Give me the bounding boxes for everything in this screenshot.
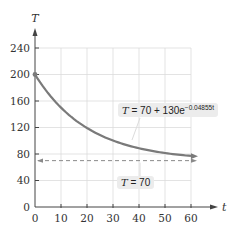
y-tick-label: 200	[10, 68, 30, 80]
y-tick-label: 80	[17, 148, 30, 160]
tick-labels: 010203040506004080120160200240Tt	[10, 12, 227, 224]
y-axis-arrow-icon	[33, 28, 38, 36]
y-tick-label: 240	[10, 42, 30, 54]
asymptote-equation-label: T = 70	[117, 176, 154, 189]
curve-equation-rhs: = 70 + 130e	[129, 105, 185, 116]
asymptote-left-arrow-icon	[37, 158, 43, 162]
curve-equation-exponent: −0.04855t	[185, 104, 214, 111]
y-tick-label: 0	[23, 201, 30, 213]
asymptote-equation-lhs: T	[121, 177, 128, 188]
x-tick-label: 20	[80, 212, 93, 224]
y-tick-label: 40	[17, 174, 30, 186]
curve-equation-label: T = 70 + 130e−0.04855t	[118, 103, 218, 117]
x-tick-label: 0	[32, 212, 39, 224]
x-tick-label: 30	[106, 212, 119, 224]
y-tick-label: 120	[10, 121, 30, 133]
grid-lines	[35, 48, 191, 207]
x-tick-label: 60	[184, 212, 197, 224]
x-axis-arrow-icon	[210, 205, 218, 210]
initial-point	[33, 72, 38, 77]
curve-arrow-icon	[191, 153, 198, 159]
y-tick-label: 160	[10, 95, 30, 107]
x-axis-label: t	[222, 201, 227, 214]
x-tick-label: 10	[54, 212, 67, 224]
data-series	[33, 72, 198, 176]
asymptote-right-arrow-icon	[191, 158, 197, 162]
asymptote-equation-rhs: = 70	[128, 177, 151, 188]
curve-equation-lhs: T	[122, 105, 129, 116]
x-tick-label: 40	[132, 212, 145, 224]
x-tick-label: 50	[158, 212, 171, 224]
y-axis-label: T	[31, 12, 40, 25]
